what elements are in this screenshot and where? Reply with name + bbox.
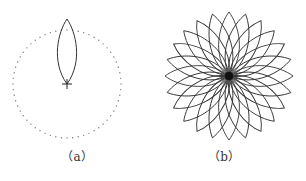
dotted-circle-dot: [110, 52, 111, 53]
dotted-circle-dot: [78, 30, 79, 31]
dotted-circle-dot: [116, 105, 117, 106]
dotted-circle-dot: [44, 34, 45, 35]
petal-outline: [57, 19, 76, 84]
dotted-circle-dot: [119, 95, 120, 96]
dotted-circle-dot: [118, 67, 119, 68]
dotted-circle-dot: [50, 135, 51, 136]
dotted-circle-dot: [66, 29, 67, 30]
figure: （a） （b）: [0, 0, 306, 181]
dotted-circle-dot: [120, 78, 121, 79]
dotted-circle-dot: [26, 119, 27, 120]
dotted-circle-dot: [98, 127, 99, 128]
dotted-circle-dot: [17, 61, 18, 62]
dotted-circle-dot: [106, 119, 107, 120]
dotted-circle-dot: [93, 130, 94, 131]
dotted-circle-dot: [98, 40, 99, 41]
panel-a-single-petal-diagram: [12, 19, 121, 139]
dotted-circle-dot: [120, 83, 121, 84]
dotted-circle-dot: [88, 133, 89, 134]
origin-cross-marker: [62, 79, 72, 89]
dotted-circle-dot: [110, 115, 111, 116]
panel-b-flower-diagram: [164, 11, 293, 140]
dotted-circle-dot: [23, 52, 24, 53]
dotted-circle-dot: [17, 105, 18, 106]
dotted-circle-dot: [113, 110, 114, 111]
dotted-circle-dot: [120, 89, 121, 90]
dotted-circle-dot: [12, 83, 13, 84]
dotted-circle-dot: [15, 100, 16, 101]
dotted-circle-dot: [35, 127, 36, 128]
dotted-circle-dot: [30, 123, 31, 124]
figure-canvas: [0, 0, 306, 181]
dotted-circle-dot: [13, 89, 14, 90]
dotted-circle-dot: [78, 136, 79, 137]
caption-a: （a）: [61, 147, 92, 164]
dotted-circle-dot: [102, 43, 103, 44]
dotted-circle-dot: [55, 30, 56, 31]
dotted-circle-dot: [23, 115, 24, 116]
dotted-circle-dot: [55, 136, 56, 137]
dotted-circle-dot: [44, 133, 45, 134]
dotted-circle-dot: [13, 95, 14, 96]
dotted-circle-dot: [39, 130, 40, 131]
dotted-circle-dot: [72, 137, 73, 138]
dotted-circle-dot: [119, 72, 120, 73]
caption-b: （b）: [208, 147, 240, 164]
dotted-circle-dot: [116, 61, 117, 62]
dotted-circle-dot: [106, 47, 107, 48]
dotted-circle-dot: [118, 100, 119, 101]
dotted-circle-dot: [83, 32, 84, 33]
dotted-circle-dot: [13, 72, 14, 73]
dotted-circle-dot: [13, 78, 14, 79]
dotted-circle-dot: [26, 47, 27, 48]
dotted-circle-dot: [83, 135, 84, 136]
dotted-circle-dot: [88, 34, 89, 35]
dotted-circle-dot: [20, 56, 21, 57]
dotted-circle-dot: [39, 37, 40, 38]
dotted-circle-dot: [20, 110, 21, 111]
flower-center: [225, 72, 233, 80]
dotted-circle-dot: [30, 43, 31, 44]
dotted-circle-dot: [50, 32, 51, 33]
dotted-circle-dot: [66, 137, 67, 138]
dotted-circle-dot: [15, 67, 16, 68]
dotted-circle-dot: [93, 37, 94, 38]
dotted-circle-dot: [102, 123, 103, 124]
dotted-circle-dot: [35, 40, 36, 41]
dotted-circle-dot: [61, 137, 62, 138]
dotted-circle-dot: [113, 56, 114, 57]
